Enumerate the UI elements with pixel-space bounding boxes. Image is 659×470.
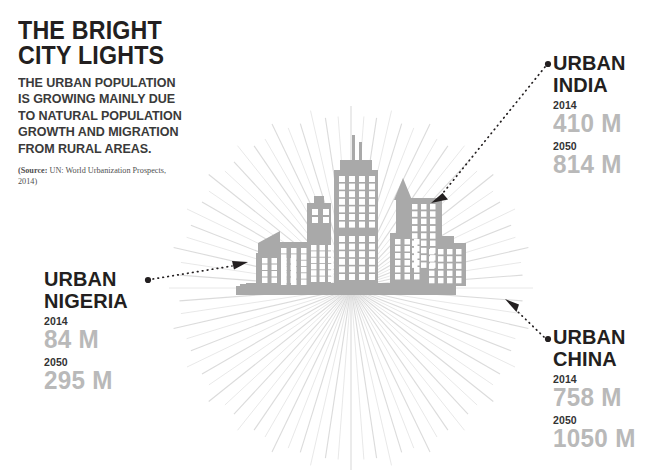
callout-india-name: URBAN INDIA [553,52,626,95]
infographic-canvas: THE BRIGHT CITY LIGHTS THE URBAN POPULAT… [0,0,659,470]
india-dotted-line [443,67,545,193]
callout-nigeria-name-line-2: NIGERIA [44,289,128,312]
subtitle-line-4: GROWTH AND MIGRATION [18,124,179,139]
india-anchor-dot [545,61,551,67]
subtitle-line-2: IS GROWING MAINLY DUE [18,91,175,106]
callout-india-name-line-2: INDIA [553,73,608,96]
nigeria-arrowhead [232,261,248,270]
subtitle-paragraph: THE URBAN POPULATION IS GROWING MAINLY D… [18,75,222,157]
source-label: (Source: [18,166,47,175]
callout-india-value-2050: 814 M [553,152,627,177]
callout-nigeria-name-line-1: URBAN [44,267,117,290]
callout-urban-nigeria: URBAN NIGERIA 2014 84 M 2050 295 M [44,268,132,393]
page-title: THE BRIGHT CITY LIGHTS [18,18,218,68]
callout-nigeria-value-2014: 84 M [44,327,130,352]
callout-india-name-line-1: URBAN [553,51,626,74]
callout-nigeria-name: URBAN NIGERIA [44,268,128,311]
dotted-arrow-nigeria [145,261,248,283]
callout-china-value-2050: 1050 M [553,426,636,451]
subtitle-line-3: TO NATURAL POPULATION [18,108,182,123]
title-line-1: THE BRIGHT [18,16,162,44]
dotted-arrow-india [431,61,551,203]
headline-block: THE BRIGHT CITY LIGHTS THE URBAN POPULAT… [18,18,233,187]
callout-china-name: URBAN CHINA [553,326,634,369]
india-arrowhead [431,193,448,203]
dotted-arrow-china [505,299,551,342]
callout-nigeria-value-2050: 295 M [44,368,130,393]
subtitle-line-5: FROM RURAL AREAS. [18,141,152,156]
source-citation: (Source: UN: World Urbanization Prospect… [18,166,178,187]
callout-china-name-line-1: URBAN [553,325,626,348]
china-anchor-dot [545,336,551,342]
callout-urban-india: URBAN INDIA 2014 410 M 2050 814 M [553,52,629,177]
callout-china-name-line-2: CHINA [553,347,617,370]
nigeria-dotted-line [153,266,232,279]
title-line-2: CITY LIGHTS [18,41,164,69]
china-dotted-line [517,311,544,337]
callout-india-value-2014: 410 M [553,111,627,136]
china-arrowhead [505,299,519,312]
callout-china-value-2014: 758 M [553,385,636,410]
callout-urban-china: URBAN CHINA 2014 758 M 2050 1050 M [553,326,638,451]
subtitle-line-1: THE URBAN POPULATION [18,75,176,90]
nigeria-anchor-dot [145,277,151,283]
